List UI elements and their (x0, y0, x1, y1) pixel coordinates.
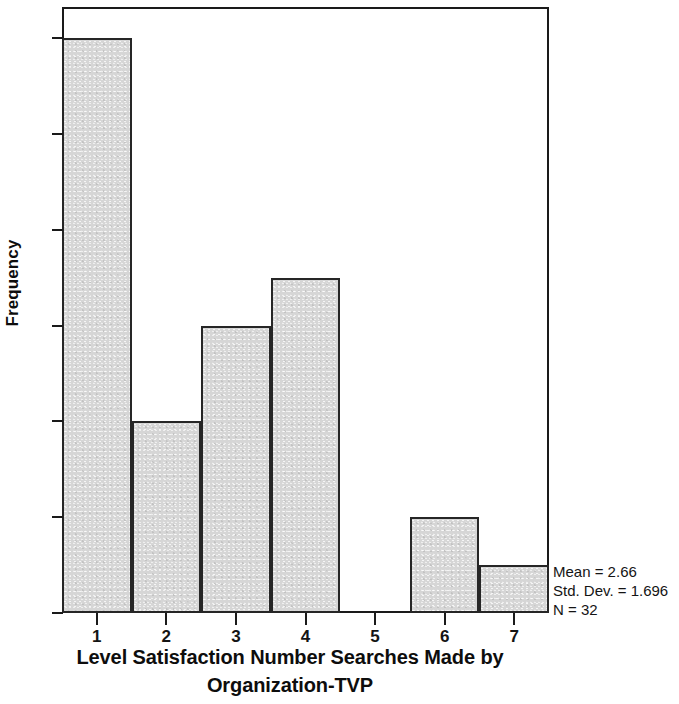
x-tick-mark (513, 613, 515, 625)
bars-container (62, 7, 549, 613)
x-tick-mark (444, 613, 446, 625)
stat-std-dev: Std. Dev. = 1.696 (553, 581, 679, 600)
y-tick-mark (52, 516, 63, 518)
bar-7 (479, 565, 549, 613)
y-axis-title: Frequency (3, 223, 23, 343)
y-tick-mark (52, 612, 63, 614)
bar-2 (132, 421, 202, 613)
y-tick-mark (52, 37, 63, 39)
x-axis-title-line1: Level Satisfaction Number Searches Made … (76, 646, 503, 668)
x-tick-mark (374, 613, 376, 625)
stat-mean: Mean = 2.66 (553, 562, 679, 581)
y-tick-mark (52, 325, 63, 327)
y-tick-mark (52, 133, 63, 135)
x-tick-mark (165, 613, 167, 625)
bar-3 (201, 326, 271, 613)
y-tick-mark (52, 420, 63, 422)
x-tick-mark (305, 613, 307, 625)
bar-1 (62, 38, 132, 613)
x-tick-mark (96, 613, 98, 625)
bar-6 (410, 517, 480, 613)
statistics-annotation: Mean = 2.66 Std. Dev. = 1.696 N = 32 (553, 562, 679, 619)
x-axis-title-line2: Organization-TVP (207, 674, 373, 696)
bar-4 (271, 278, 341, 613)
x-axis-title: Level Satisfaction Number Searches Made … (40, 643, 540, 699)
stat-n: N = 32 (553, 600, 679, 619)
x-tick-mark (235, 613, 237, 625)
histogram-chart: 024681012 Frequency 1234567 Level Satisf… (0, 0, 679, 704)
y-tick-mark (52, 229, 63, 231)
